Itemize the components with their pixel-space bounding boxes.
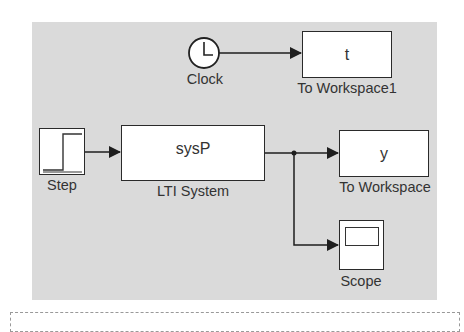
step-icon <box>41 130 84 174</box>
to-workspace1-block[interactable]: t <box>302 31 392 78</box>
to-workspace1-variable: t <box>345 46 349 64</box>
to-workspace-label: To Workspace <box>339 179 431 195</box>
scope-block[interactable] <box>339 220 384 270</box>
step-label: Step <box>47 177 77 193</box>
lti-system-label: LTI System <box>157 183 229 199</box>
branch-point <box>292 151 297 156</box>
clock-label: Clock <box>187 71 223 87</box>
step-block[interactable] <box>39 128 85 175</box>
scope-label: Scope <box>340 273 381 289</box>
signal-branch-to-scope <box>294 153 338 245</box>
clock-block[interactable] <box>189 38 219 68</box>
to-workspace-variable: y <box>380 145 388 163</box>
caption-frame <box>10 312 460 332</box>
to-workspace1-label: To Workspace1 <box>297 80 397 96</box>
scope-screen-icon <box>345 227 379 246</box>
lti-system-block[interactable]: sysP <box>121 125 265 181</box>
to-workspace-block[interactable]: y <box>339 130 429 177</box>
lti-system-content: sysP <box>176 140 211 158</box>
